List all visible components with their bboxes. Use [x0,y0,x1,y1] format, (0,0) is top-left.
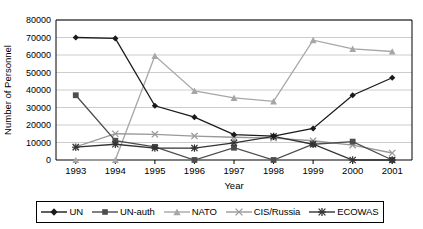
legend-marker-cross [226,206,252,218]
legend-label-un: UN [69,207,83,217]
line-chart: 0100002000030000400005000060000700008000… [0,0,423,196]
data-point-triangle [151,53,158,59]
x-axis-tick-label: 1997 [223,165,244,176]
data-point-asterisk [151,144,158,151]
y-axis-tick-label: 50000 [26,68,51,78]
legend-item-un-auth[interactable]: UN-auth [92,206,155,218]
legend-marker-triangle [164,206,190,218]
legend-label-ecowas: ECOWAS [337,207,378,217]
x-axis-tick-label: 1995 [144,165,165,176]
legend-item-cis-russia[interactable]: CIS/Russia [226,206,301,218]
y-axis-tick-label: 70000 [26,33,51,43]
data-point-square [271,157,277,163]
legend-marker-square [92,206,118,218]
data-point-square [73,92,79,98]
data-point-diamond [389,75,395,81]
legend-label-cis-russia: CIS/Russia [254,207,301,217]
data-point-asterisk [349,156,356,163]
y-axis-tick-label: 80000 [26,15,51,25]
legend-item-nato[interactable]: NATO [164,206,217,218]
x-axis-tick-label: 2001 [382,165,403,176]
x-axis-title: Year [224,180,243,191]
legend-item-ecowas[interactable]: ECOWAS [309,206,378,218]
chart-figure: 0100002000030000400005000060000700008000… [0,0,423,229]
y-axis-tick-label: 20000 [26,120,51,130]
y-axis-title: Number of Personnel [2,45,13,135]
data-point-diamond [112,35,118,41]
data-point-square [192,157,198,163]
x-axis-tick-label: 2000 [342,165,363,176]
legend-marker-diamond [41,206,67,218]
legend-marker-asterisk [309,206,335,218]
x-axis-tick-label: 1998 [263,165,284,176]
data-point-diamond [152,103,158,109]
y-axis-tick-label: 60000 [26,50,51,60]
x-axis-tick-label: 1996 [184,165,205,176]
data-point-diamond [73,34,79,40]
x-axis-tick-label: 1999 [303,165,324,176]
data-point-square [350,139,356,145]
data-point-asterisk [230,139,237,146]
legend-item-un[interactable]: UN [41,206,83,218]
y-axis-tick-label: 40000 [26,85,51,95]
legend-label-nato: NATO [192,207,217,217]
chart-legend: UN UN-auth NATO CIS/Russia [36,201,384,223]
x-axis-tick-label: 1993 [65,165,86,176]
y-axis-tick-label: 10000 [26,138,51,148]
legend-label-un-auth: UN-auth [120,207,155,217]
x-axis-tick-label: 1994 [105,165,126,176]
y-axis-tick-label: 0 [46,155,51,165]
series-line-un [76,38,392,137]
data-point-asterisk [389,156,396,163]
data-point-asterisk [191,144,198,151]
data-point-asterisk [309,141,316,148]
data-point-asterisk [72,144,79,151]
data-point-asterisk [112,141,119,148]
data-point-diamond [191,114,197,120]
y-axis-tick-label: 30000 [26,103,51,113]
